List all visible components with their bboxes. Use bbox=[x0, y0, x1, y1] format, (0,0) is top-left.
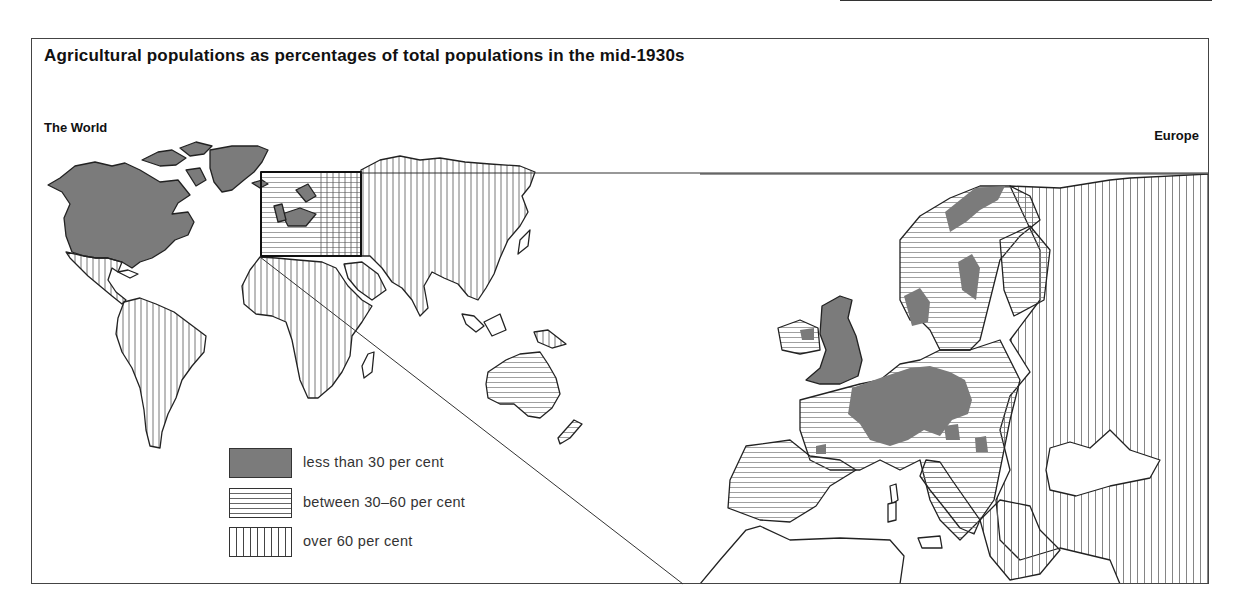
region-south-america bbox=[116, 298, 206, 448]
legend-item-low: less than 30 per cent bbox=[229, 448, 509, 480]
legend-label: less than 30 per cent bbox=[303, 454, 444, 470]
legend-label: over 60 per cent bbox=[303, 533, 413, 549]
europe-map bbox=[700, 174, 1210, 584]
legend-item-mid: between 30–60 per cent bbox=[229, 488, 509, 520]
region-north-america bbox=[48, 162, 194, 268]
map-canvas bbox=[0, 0, 1236, 609]
legend-swatch-solid-grey bbox=[229, 448, 292, 478]
legend-swatch-vertical-lines bbox=[229, 527, 292, 557]
region-australia bbox=[486, 352, 560, 418]
region-asia bbox=[361, 156, 535, 316]
legend-swatch-horizontal-lines bbox=[229, 488, 292, 518]
world-map bbox=[48, 142, 582, 448]
legend-label: between 30–60 per cent bbox=[303, 494, 465, 510]
legend-item-high: over 60 per cent bbox=[229, 527, 509, 559]
